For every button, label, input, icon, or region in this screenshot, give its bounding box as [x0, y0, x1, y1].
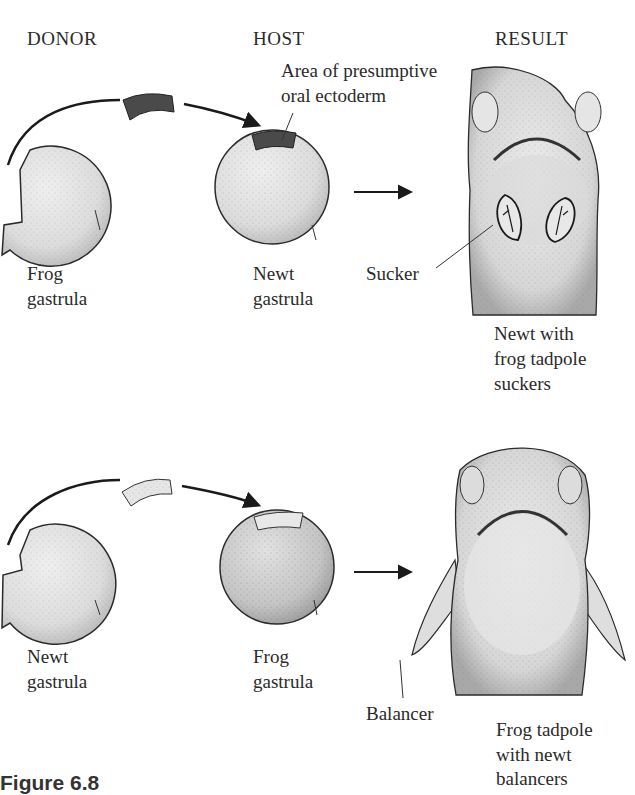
bottom-donor-label-line2: gastrula: [27, 670, 87, 693]
top-result-caption-line1: Newt with: [494, 322, 574, 345]
bottom-result-caption-line2: with newt: [496, 743, 571, 766]
sucker-label: Sucker: [366, 262, 419, 285]
bottom-donor-embryo: [2, 524, 116, 644]
top-result-caption-line3: suckers: [494, 372, 551, 395]
balancer-label: Balancer: [366, 702, 434, 725]
top-result-newt: [468, 67, 601, 315]
bottom-host-label-line1: Frog: [253, 645, 289, 668]
header-result: RESULT: [495, 28, 568, 50]
top-graft-tissue: [123, 94, 174, 120]
balancer-pointer-line: [400, 660, 403, 698]
bottom-result-caption-line3: balancers: [496, 767, 568, 790]
figure-label: Figure 6.8: [0, 771, 99, 795]
bottom-donor-label-line1: Newt: [27, 645, 68, 668]
bottom-result-caption-line1: Frog tadpole: [496, 718, 593, 741]
top-donor-label-line1: Frog: [27, 262, 63, 285]
top-result-caption-line2: frog tadpole: [494, 347, 586, 370]
bottom-host-label-line2: gastrula: [253, 670, 313, 693]
top-host-embryo: [215, 113, 329, 244]
top-donor-embryo: [2, 146, 111, 266]
header-donor: DONOR: [27, 28, 97, 50]
bottom-result-tadpole: [412, 448, 625, 695]
bottom-transfer-arrow: [182, 486, 258, 505]
top-donor-label-line2: gastrula: [27, 287, 87, 310]
top-host-label-line1: Newt: [253, 262, 294, 285]
bottom-graft-tissue: [122, 479, 172, 506]
header-host: HOST: [253, 28, 305, 50]
annotation-oral-ectoderm-line2: oral ectoderm: [281, 84, 386, 107]
top-host-label-line2: gastrula: [253, 287, 313, 310]
annotation-oral-ectoderm-line1: Area of presumptive: [281, 59, 437, 82]
top-transfer-arrow: [184, 104, 258, 125]
bottom-host-embryo: [220, 510, 334, 624]
